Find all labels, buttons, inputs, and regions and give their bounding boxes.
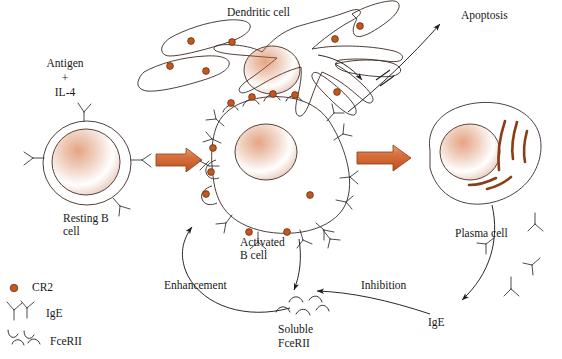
- label-free-ige: IgE: [428, 316, 445, 329]
- label-soluble-line2: FceRII: [278, 337, 310, 349]
- label-activated-b-cell-line1: Activated: [240, 236, 285, 248]
- label-resting-b-cell-line2: cell: [63, 225, 80, 237]
- label-inhibition: Inhibition: [361, 279, 407, 291]
- plasma-nucleus-shading: [440, 124, 500, 180]
- b-cell-activation-diagram: Dendritic cell Apoptosis Antigen + IL-4 …: [0, 0, 562, 359]
- label-dendritic-cell: Dendritic cell: [227, 6, 290, 18]
- label-antigen: Antigen: [46, 57, 83, 70]
- label-plus-sign: +: [62, 72, 69, 84]
- activated-nucleus-shading: [235, 124, 297, 180]
- label-activated-b-cell-line2: B cell: [240, 249, 267, 261]
- legend-cr2-dot-icon: [10, 284, 18, 292]
- legend-label-ige: IgE: [46, 307, 63, 320]
- label-enhancement: Enhancement: [164, 279, 227, 291]
- diagram-canvas: Dendritic cell Apoptosis Antigen + IL-4 …: [0, 0, 562, 359]
- label-apoptosis: Apoptosis: [461, 9, 508, 22]
- label-resting-b-cell-line1: Resting B: [63, 212, 109, 225]
- label-soluble-line1: Soluble: [278, 323, 313, 335]
- dendritic-nucleus-shading: [244, 46, 300, 94]
- label-il4: IL-4: [55, 86, 76, 98]
- label-plasma-cell: Plasma cell: [455, 227, 508, 239]
- legend-label-cr2: CR2: [32, 281, 53, 293]
- resting-nucleus-shading: [52, 129, 120, 195]
- legend-label-fceriI: FceRII: [50, 335, 82, 347]
